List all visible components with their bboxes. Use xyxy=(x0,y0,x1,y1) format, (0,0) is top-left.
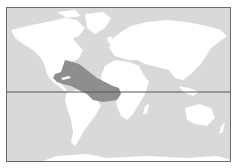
world-map-svg xyxy=(7,8,231,162)
world-map xyxy=(6,7,231,162)
